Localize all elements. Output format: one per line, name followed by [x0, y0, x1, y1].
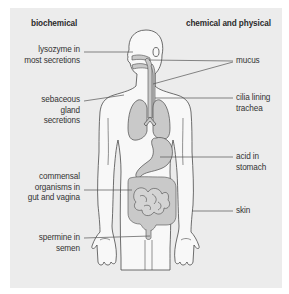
- label-mucus: mucus: [236, 56, 260, 67]
- label-acid: acid in stomach: [236, 152, 266, 173]
- diagram-panel: biochemical chemical and physical lysozy…: [0, 0, 289, 294]
- label-skin: skin: [236, 206, 250, 217]
- heading-chemical-physical: chemical and physical: [186, 19, 271, 28]
- label-cilia: cilia lining trachea: [236, 93, 270, 114]
- leader-mucus-2: [153, 62, 233, 84]
- label-spermine: spermine in semen: [39, 233, 80, 254]
- heading-biochemical: biochemical: [31, 19, 77, 28]
- label-lysozyme: lysozyme in most secretions: [24, 45, 80, 66]
- label-commensal: commensal organisms in gut and vagina: [28, 172, 80, 204]
- label-sebaceous: sebaceous gland secretions: [41, 95, 80, 127]
